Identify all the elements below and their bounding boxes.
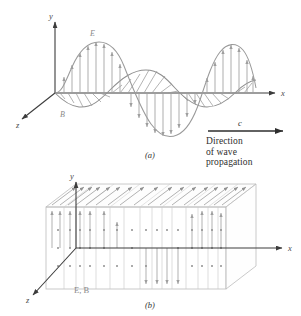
field-slab-box <box>46 184 256 289</box>
speed-of-light-label: c <box>238 118 242 128</box>
e-field-label-a: E <box>89 29 95 38</box>
y-axis-label-a: y <box>48 11 53 21</box>
z-axis-label-a: z <box>15 120 20 130</box>
x-axis-label-b: x <box>287 243 292 253</box>
z-axis-label-b: z <box>25 295 30 305</box>
panel-b-caption: (b) <box>145 300 155 310</box>
b-field-label-a: B <box>60 110 65 119</box>
direction-of-propagation-text: Direction of wave propagation <box>206 136 298 168</box>
eb-field-label-b: E, B <box>74 285 89 295</box>
y-axis-label-b: y <box>69 171 74 181</box>
x-axis-label-a: x <box>280 88 285 98</box>
panel-a-caption: (a) <box>145 150 155 160</box>
figure-root: x y z E B (a) c <box>0 0 301 316</box>
